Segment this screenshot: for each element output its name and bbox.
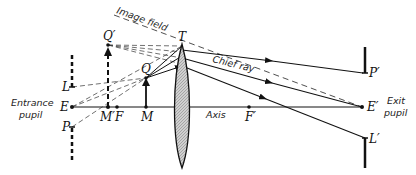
label-M: M [140, 110, 154, 124]
label-L-prime: L′ [368, 132, 380, 146]
label-F-prime: F′ [244, 110, 256, 124]
label-F: F [114, 110, 124, 124]
object-side-rays [72, 45, 182, 127]
label-E-prime: E′ [366, 100, 379, 114]
label-exit-pupil-2: pupil [383, 107, 408, 118]
image-side-rays [182, 50, 365, 138]
label-M-prime: M′ [99, 110, 115, 124]
label-P: P [61, 120, 71, 134]
label-entrance-pupil-1: Entrance [11, 97, 54, 108]
label-E: E [59, 100, 69, 114]
label-exit-pupil-1: Exit [387, 95, 406, 106]
label-P-prime: P′ [368, 66, 380, 80]
label-entrance-pupil-2: pupil [18, 109, 43, 120]
label-Q: Q [141, 62, 151, 76]
optics-diagram: Q′ Q T L E P M′ F M F′ E′ P′ L′ Image fi… [0, 0, 416, 175]
label-image-field: Image field [115, 5, 170, 34]
label-T: T [178, 30, 187, 44]
label-L: L [61, 80, 70, 94]
label-axis: Axis [205, 109, 226, 120]
lens [175, 44, 190, 168]
label-Q-prime: Q′ [103, 29, 116, 43]
